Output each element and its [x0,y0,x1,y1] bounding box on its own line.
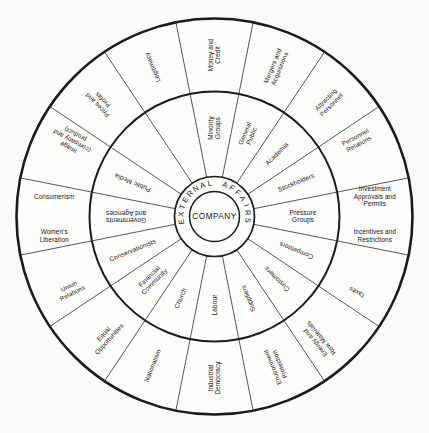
hub-label: COMPANY [192,212,236,221]
core-ring-label-char: L [207,178,214,188]
core-ring-label-char: X [176,210,186,217]
core-ring-label-char: E [176,217,186,225]
hub-label: COMPANY [192,212,236,221]
outer-ring-label: IndustrialDemocracy [206,361,222,395]
core-ring-label-char: R [243,210,253,218]
outer-ring-label: Incentives andRestrictions [353,228,396,243]
middle-ring-label: PressureGroups [290,209,317,224]
middle-ring-label: MinorityGroups [207,116,222,140]
outer-ring-label: Consumerism [34,193,75,200]
outer-ring-label: Women'sLiberation [40,228,69,243]
middle-ring-label: Governmentsand Agencies [105,209,146,224]
wheel-svg: Money andCreditMergers andAcquisitionsAt… [0,0,429,433]
core-ring-label-char: S [243,217,253,225]
wheel-diagram: Money andCreditMergers andAcquisitionsAt… [0,0,429,433]
middle-ring-label: Labour [210,294,217,316]
